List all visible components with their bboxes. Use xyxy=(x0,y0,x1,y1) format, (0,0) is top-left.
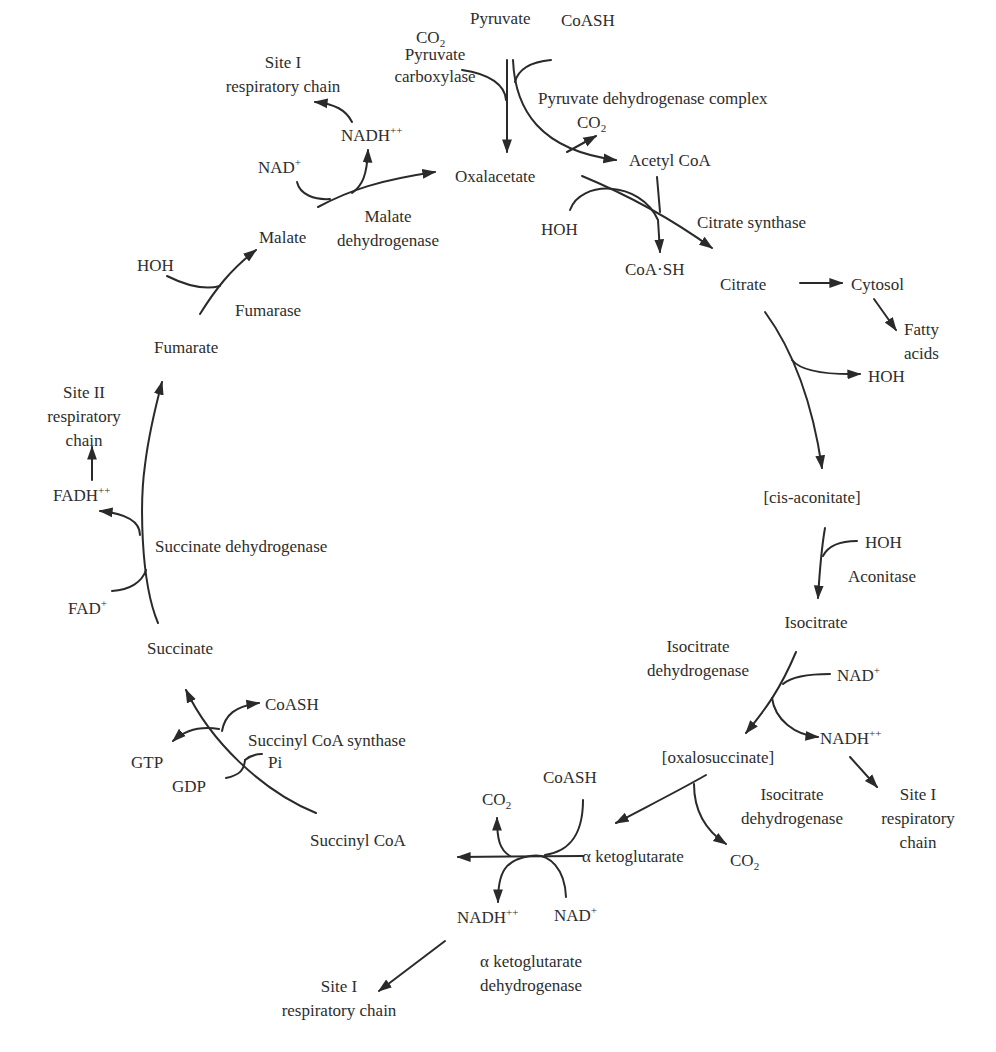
pyruvate-carboxylase-label-line2: carboxylase xyxy=(394,66,475,87)
coash-out-scs xyxy=(222,703,259,731)
site1-icdh-label-line1: Site I xyxy=(900,784,936,805)
site2-sdh-label-line1: Site II xyxy=(63,382,105,403)
oxalosuccinate-label: [oxalosuccinate] xyxy=(662,747,774,768)
isocitrate-label: Isocitrate xyxy=(784,612,847,633)
isocitrate-dehydrogenase-top-label-line2: dehydrogenase xyxy=(647,660,749,681)
pi-label: Pi xyxy=(268,752,282,773)
nad-nadh-akgdh xyxy=(498,855,566,902)
isocitrate-dehydrogenase-bottom-label-line1: Isocitrate xyxy=(760,784,823,805)
fatty-acids-label-line2: acids xyxy=(904,343,939,364)
gtp-out-scs xyxy=(173,728,219,741)
arrow-oxalacetate-to-citrate xyxy=(582,176,712,248)
cis-aconitate-label: [cis-aconitate] xyxy=(763,487,860,508)
arrow-isocitrate-to-oxalosuccinate xyxy=(746,652,796,733)
succinyl-coa-synthase-label: Succinyl CoA synthase xyxy=(248,730,406,751)
co2-pdh-label: CO2 xyxy=(577,112,606,133)
reaction-arrows xyxy=(0,0,996,1052)
tca-cycle-diagram: Pyruvate CoASH CO2 Pyruvate carboxylase … xyxy=(0,0,996,1052)
pyruvate-dehydrogenase-complex-label: Pyruvate dehydrogenase complex xyxy=(538,88,767,109)
fad-in-sdh xyxy=(112,570,146,591)
isocitrate-dehydrogenase-bottom-label-line2: dehydrogenase xyxy=(741,808,843,829)
hoh-aconitase-label: HOH xyxy=(865,532,902,553)
site1-akgdh-label-line2: respiratory chain xyxy=(282,1000,397,1021)
citrate-label: Citrate xyxy=(720,274,766,295)
coash-out-cs xyxy=(570,189,660,252)
coash-pdh-label: CoASH xyxy=(561,10,615,31)
hoh-citrate-label: HOH xyxy=(868,366,905,387)
hoh-in-aconitase xyxy=(823,541,857,556)
nadh-out-icdh xyxy=(772,698,818,737)
acetylcoa-in-cs xyxy=(657,177,660,212)
fumarate-label: Fumarate xyxy=(154,337,218,358)
arrow-nadh-to-site1-akgdh xyxy=(379,941,445,991)
co2-icdh-label: CO2 xyxy=(730,850,759,871)
nadh-mdh-label: NADH++ xyxy=(341,125,403,146)
arrow-nadh-to-site1-icdh xyxy=(850,757,877,787)
akg-dehydrogenase-label-line2: dehydrogenase xyxy=(480,975,582,996)
fadh-out-sdh xyxy=(100,511,140,535)
arrow-pyruvate-to-acetylcoa xyxy=(513,60,616,160)
hoh-out-citrate xyxy=(792,360,860,374)
site1-akgdh-label-line1: Site I xyxy=(321,976,357,997)
gdp-in-scs xyxy=(226,760,245,778)
arrow-nadh-to-site1-mdh xyxy=(315,102,352,122)
hoh-fumarase-label: HOH xyxy=(137,255,174,276)
pyruvate-label: Pyruvate xyxy=(470,8,530,29)
succinate-dehydrogenase-label: Succinate dehydrogenase xyxy=(155,536,327,557)
site1-icdh-label-line2: respiratory xyxy=(881,808,955,829)
succinate-label: Succinate xyxy=(147,638,213,659)
site2-sdh-label-line2: respiratory xyxy=(47,406,121,427)
alpha-ketoglutarate-label: α ketoglutarate xyxy=(582,846,684,867)
coash-akgdh-label: CoASH xyxy=(543,767,597,788)
nad-in-mdh xyxy=(297,182,330,199)
akg-dehydrogenase-label-line1: α ketoglutarate xyxy=(480,951,582,972)
nadh-icdh-label: NADH++ xyxy=(820,728,882,749)
hoh-cs-label: HOH xyxy=(541,219,578,240)
pyruvate-carboxylase-label-line1: Pyruvate xyxy=(405,44,465,65)
coa-sh-label: CoA·SH xyxy=(625,259,685,280)
site2-sdh-label-line3: chain xyxy=(66,430,103,451)
gdp-label: GDP xyxy=(172,776,206,797)
fad-label: FAD+ xyxy=(68,598,107,619)
arrow-succinate-to-fumarate xyxy=(142,382,162,623)
site1-mdh-label-line2: respiratory chain xyxy=(226,76,341,97)
malate-label: Malate xyxy=(259,227,306,248)
acetyl-coa-label: Acetyl CoA xyxy=(629,150,711,171)
coash-scs-label: CoASH xyxy=(265,694,319,715)
hoh-in-fumarase xyxy=(167,276,220,287)
nad-icdh-label: NAD+ xyxy=(837,665,880,686)
co2-out-icdh xyxy=(694,784,726,844)
site1-mdh-label-line1: Site I xyxy=(265,52,301,73)
co2-out-akgdh xyxy=(497,818,510,856)
oxalacetate-label: Oxalacetate xyxy=(455,166,535,187)
pi-in-scs xyxy=(245,754,262,760)
fatty-acids-label-line1: Fatty xyxy=(904,319,939,340)
nad-mdh-label: NAD+ xyxy=(258,157,301,178)
malate-dehydrogenase-label-line2: dehydrogenase xyxy=(337,230,439,251)
nad-akgdh-label: NAD+ xyxy=(554,905,597,926)
fadh-label: FADH++ xyxy=(53,485,110,506)
fumarase-label: Fumarase xyxy=(235,300,301,321)
arrow-akg-to-succinylcoa xyxy=(458,856,583,857)
arrow-cisaconitate-to-isocitrate xyxy=(818,528,825,598)
isocitrate-dehydrogenase-top-label-line1: Isocitrate xyxy=(666,636,729,657)
citrate-synthase-label: Citrate synthase xyxy=(697,212,806,233)
gtp-label: GTP xyxy=(131,752,163,773)
malate-dehydrogenase-label-line1: Malate xyxy=(364,206,411,227)
arrow-malate-to-oxalacetate xyxy=(318,172,435,207)
site1-icdh-label-line3: chain xyxy=(900,832,937,853)
nad-in-icdh xyxy=(783,674,830,684)
co2-akgdh-label: CO2 xyxy=(482,789,511,810)
aconitase-label: Aconitase xyxy=(848,566,916,587)
co2-out-pdh xyxy=(567,136,596,152)
nadh-akgdh-label: NADH++ xyxy=(457,907,519,928)
arrow-oxalosuccinate-to-akg xyxy=(616,775,706,823)
arrow-cytosol-to-fattyacids xyxy=(874,299,896,330)
coash-in-pdh xyxy=(515,60,551,82)
cytosol-label: Cytosol xyxy=(851,274,904,295)
succinyl-coa-label: Succinyl CoA xyxy=(310,830,406,851)
arrow-citrate-to-cisaconitate xyxy=(765,312,822,468)
coash-in-akgdh xyxy=(545,800,583,855)
